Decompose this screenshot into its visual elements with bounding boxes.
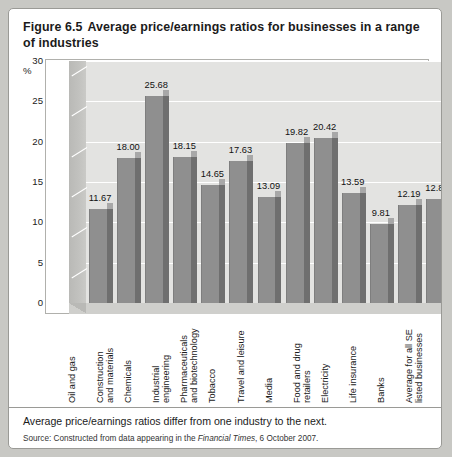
bar <box>398 205 416 303</box>
bar-front-face <box>398 205 417 303</box>
bar-value-label: 18.15 <box>173 141 196 151</box>
bar-top-face <box>163 90 169 96</box>
bar <box>286 143 304 303</box>
x-tick-label: Pharmaceuticals and biotechnology <box>179 317 200 403</box>
bars-layer: 11.6718.0025.6818.1514.6517.6313.0919.82… <box>86 61 442 303</box>
bar-front-face <box>117 158 136 303</box>
bar-top-face <box>219 179 225 185</box>
bar-value-label: 19.82 <box>285 127 308 137</box>
x-tick-label: Industrial engineering <box>151 317 172 403</box>
figure-number: Figure 6.5 <box>23 20 83 34</box>
bar-value-label: 20.42 <box>313 122 336 132</box>
bar <box>89 209 107 303</box>
bar-top-face <box>107 203 113 209</box>
bar-front-face <box>314 138 333 303</box>
bar-top-face <box>360 187 366 193</box>
bar <box>117 158 135 303</box>
bar-value-label: 11.67 <box>89 193 112 203</box>
bar-top-face <box>388 218 394 224</box>
x-tick-label: Banks <box>376 317 386 403</box>
y-tick-label: 20 <box>32 135 43 146</box>
bar-front-face <box>370 224 389 303</box>
bar-top-face <box>191 151 197 157</box>
x-tick-label: Electricity <box>320 317 330 403</box>
bar-value-label: 9.81 <box>372 208 390 218</box>
figure-title: Figure 6.5Average price/earnings ratios … <box>23 19 423 51</box>
x-tick-label: Construction and materials <box>95 317 116 403</box>
figure-caption: Average price/earnings ratios differ fro… <box>23 415 427 427</box>
bar <box>145 96 163 303</box>
bar-front-face <box>286 143 305 303</box>
bar-value-label: 13.09 <box>257 181 280 191</box>
x-tick-label: Chemicals <box>123 317 133 403</box>
bar-side-face <box>388 224 394 303</box>
figure-source: Source: Constructed from data appearing … <box>23 434 427 443</box>
x-tick-label: Food and drug retailers <box>292 317 313 403</box>
y-tick-label: 15 <box>32 176 43 187</box>
bar-side-face <box>163 96 169 303</box>
chart: % 051015202530 11.6718.0025.6818.1514.65… <box>23 59 429 399</box>
bar-side-face <box>275 197 281 303</box>
x-tick-label: Travel and leisure <box>236 317 246 403</box>
y-tick-label: 25 <box>32 95 43 106</box>
bar-side-face <box>135 158 141 303</box>
bar-value-label: 13.59 <box>341 177 364 187</box>
bar-value-label: 25.68 <box>145 80 168 90</box>
bar <box>426 199 442 303</box>
bar-top-face <box>247 155 253 161</box>
y-axis-ticks: 051015202530 <box>23 59 43 314</box>
bar <box>229 161 247 303</box>
footer-separator <box>9 407 441 408</box>
bar-side-face <box>247 161 253 303</box>
x-tick-label: Life insurance <box>348 317 358 403</box>
bar-value-label: 17.63 <box>229 145 252 155</box>
bar <box>314 138 332 303</box>
y-tick-label: 30 <box>32 55 43 66</box>
bar-side-face <box>191 157 197 303</box>
bar-front-face <box>426 199 442 303</box>
bar-side-face <box>304 143 310 303</box>
source-prefix: Source: Constructed from data appearing … <box>23 434 198 443</box>
bar <box>370 224 388 303</box>
x-tick-label: Media <box>264 317 274 403</box>
source-publication: Financial Times <box>198 434 255 443</box>
bar-top-face <box>332 132 338 138</box>
bar-front-face <box>173 157 192 303</box>
plot-floor-slant <box>69 303 87 314</box>
bar-value-label: 18.00 <box>116 142 139 152</box>
plot-floor <box>86 303 442 314</box>
bar-front-face <box>258 197 277 303</box>
bar-side-face <box>360 193 366 303</box>
x-tick-label: Average for all SE listed businesses <box>404 317 425 403</box>
x-axis-labels: Oil and gasConstruction and materialsChe… <box>63 317 428 403</box>
bar <box>201 185 219 303</box>
y-tick-label: 5 <box>38 256 43 267</box>
bar <box>173 157 191 303</box>
bar-value-label: 12.87 <box>425 183 442 193</box>
bar-side-face <box>416 205 422 303</box>
bar-value-label: 12.19 <box>397 189 420 199</box>
bar-side-face <box>107 209 113 303</box>
bar <box>342 193 360 303</box>
bar-front-face <box>89 209 108 303</box>
bar-side-face <box>332 138 338 303</box>
bar-top-face <box>416 199 422 205</box>
x-tick-label: Oil and gas <box>67 317 77 403</box>
bar <box>258 197 276 303</box>
bar-front-face <box>145 96 164 303</box>
plot-frame: 11.6718.0025.6818.1514.6517.6313.0919.82… <box>45 59 429 314</box>
bar-value-label: 14.65 <box>201 169 224 179</box>
bar-front-face <box>342 193 361 303</box>
bar-front-face <box>201 185 220 303</box>
bar-top-face <box>304 137 310 143</box>
source-suffix: , 6 October 2007. <box>255 434 318 443</box>
y-tick-label: 0 <box>38 297 43 308</box>
x-tick-label: Tobacco <box>207 317 217 403</box>
y-tick-label: 10 <box>32 216 43 227</box>
bar-side-face <box>219 185 225 303</box>
bar-front-face <box>229 161 248 303</box>
bar-top-face <box>135 152 141 158</box>
figure-box: Figure 6.5Average price/earnings ratios … <box>8 8 442 449</box>
bar-top-face <box>275 191 281 197</box>
